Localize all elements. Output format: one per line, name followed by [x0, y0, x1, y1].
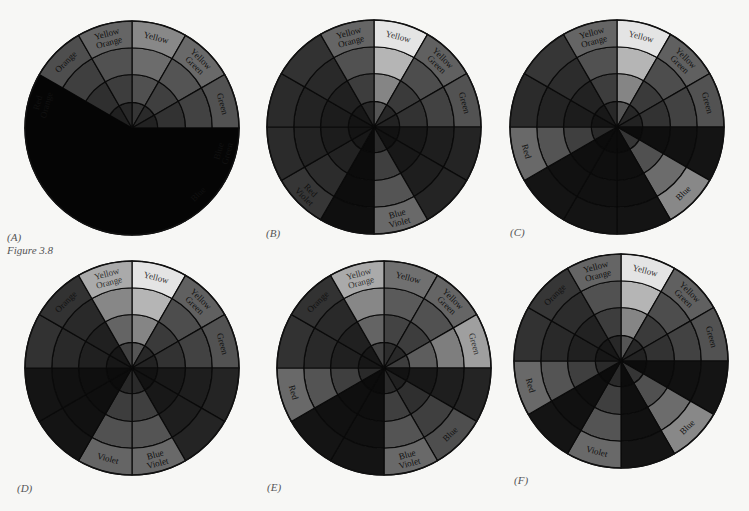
panel-label-f: (F)	[514, 474, 528, 486]
figure-caption: Figure 3.8	[7, 244, 53, 256]
panel-label-e: (E)	[267, 481, 281, 493]
panel-label-a: (A)	[7, 231, 21, 243]
panel-label-b: (B)	[266, 227, 280, 239]
color-wheel-f: YellowYellowGreenGreenBlueVioletRedOrang…	[0, 0, 749, 511]
panel-label-d: (D)	[17, 482, 32, 494]
panel-label-c: (C)	[510, 226, 525, 238]
